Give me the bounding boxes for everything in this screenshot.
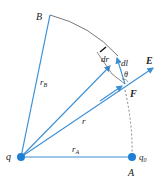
label-theta: θ — [124, 70, 128, 79]
diagram: B rB r rA q q0 A E F dl dr θ — [0, 0, 165, 183]
theta-arc — [122, 79, 128, 82]
label-q0: q0 — [139, 152, 147, 163]
arc-path — [50, 15, 118, 56]
label-q: q — [6, 151, 11, 162]
r-vector — [21, 66, 110, 157]
label-E: E — [145, 55, 153, 66]
label-dr: dr — [101, 54, 110, 64]
label-dl: dl — [121, 58, 129, 68]
label-r: r — [82, 116, 86, 126]
dr-arrow — [100, 47, 106, 52]
F-vector — [100, 86, 122, 101]
label-rA: rA — [72, 144, 80, 155]
label-F: F — [129, 88, 137, 99]
charge-q — [17, 153, 25, 161]
label-B: B — [36, 11, 42, 22]
charge-q0 — [128, 153, 136, 161]
label-rB: rB — [40, 77, 48, 88]
label-A: A — [127, 167, 135, 178]
dashed-path — [125, 90, 132, 157]
